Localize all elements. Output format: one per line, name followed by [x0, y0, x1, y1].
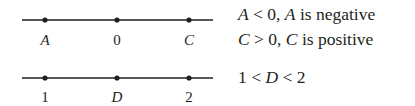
var-c: C — [286, 29, 298, 49]
label-d: D — [112, 89, 123, 106]
relation: < 0, — [249, 4, 285, 24]
description: is positive — [298, 29, 374, 49]
lower-bound: 1 < — [238, 67, 265, 87]
label-a: A — [40, 32, 49, 49]
point-d-dot — [114, 75, 119, 80]
point-one-dot — [42, 75, 47, 80]
label-zero: 0 — [113, 32, 121, 49]
statement-d-between: 1 < D < 2 — [238, 67, 305, 88]
point-a-dot — [42, 17, 47, 22]
statement-c-positive: C > 0, C is positive — [238, 29, 373, 50]
var-d: D — [265, 67, 278, 87]
point-c-dot — [186, 17, 191, 22]
point-two-dot — [186, 75, 191, 80]
upper-bound: < 2 — [278, 67, 305, 87]
label-two: 2 — [185, 89, 193, 106]
relation: > 0, — [250, 29, 286, 49]
point-zero-dot — [114, 17, 119, 22]
statement-a-negative: A < 0, A is negative — [238, 4, 375, 25]
var-c: C — [238, 29, 250, 49]
label-c: C — [184, 32, 194, 49]
var-a: A — [238, 4, 249, 24]
var-a: A — [285, 4, 296, 24]
description: is negative — [296, 4, 376, 24]
label-one: 1 — [41, 89, 49, 106]
